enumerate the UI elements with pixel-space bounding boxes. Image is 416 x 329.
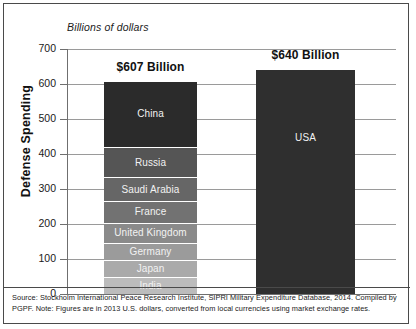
bar-segment-usa[interactable]: USA <box>256 70 355 294</box>
bar-segment-united-kingdom[interactable]: United Kingdom <box>104 223 197 243</box>
chart-subtitle: Billions of dollars <box>67 21 149 33</box>
bar-segment-label: Saudi Arabia <box>122 185 180 195</box>
footnote-text: Source: Stockholm International Peace Re… <box>12 293 402 314</box>
bar-segment-label: France <box>135 207 167 217</box>
bar-segment-label: China <box>137 109 164 119</box>
y-tick-label-600: 600 <box>22 77 56 89</box>
tick-mark-600 <box>60 84 67 85</box>
bar-segment-saudi-arabia[interactable]: Saudi Arabia <box>104 177 197 200</box>
bar-segment-label: Germany <box>130 247 172 257</box>
bar-segment-label: Japan <box>137 264 165 274</box>
footnote: Source: Stockholm International Peace Re… <box>4 287 410 325</box>
bar-total-label-usa-bar: $640 Billion <box>236 48 376 62</box>
bar-segment-china[interactable]: China <box>104 82 197 147</box>
y-tick-label-200: 200 <box>22 217 56 229</box>
y-tick-label-400: 400 <box>22 147 56 159</box>
y-tick-label-500: 500 <box>22 112 56 124</box>
y-axis-line <box>67 49 68 295</box>
chart-frame: Billions of dollars Defense Spending 700… <box>3 3 409 324</box>
bar-allies-stack[interactable]: ChinaRussiaSaudi ArabiaFranceUnited King… <box>104 82 197 294</box>
plot-area: Billions of dollars Defense Spending 700… <box>4 4 410 287</box>
tick-mark-400 <box>60 154 67 155</box>
bar-segment-germany[interactable]: Germany <box>104 243 197 260</box>
tick-mark-700 <box>60 49 67 50</box>
y-axis-title: Defense Spending <box>19 41 33 241</box>
bar-segment-japan[interactable]: Japan <box>104 260 197 277</box>
y-tick-label-300: 300 <box>22 182 56 194</box>
tick-mark-300 <box>60 189 67 190</box>
bar-usa-bar[interactable]: USA <box>256 70 355 294</box>
bar-total-label-allies-stack: $607 Billion <box>81 60 221 74</box>
bar-segment-label: United Kingdom <box>114 228 187 238</box>
bar-segment-label: USA <box>295 133 316 143</box>
y-tick-label-700: 700 <box>22 42 56 54</box>
tick-mark-200 <box>60 224 67 225</box>
tick-mark-500 <box>60 119 67 120</box>
bar-segment-russia[interactable]: Russia <box>104 147 197 178</box>
bar-segment-france[interactable]: France <box>104 201 197 223</box>
tick-mark-100 <box>60 259 67 260</box>
y-tick-label-100: 100 <box>22 252 56 264</box>
bar-segment-label: Russia <box>135 158 166 168</box>
